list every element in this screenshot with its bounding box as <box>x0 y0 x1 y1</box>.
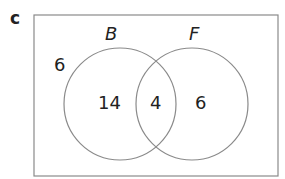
intersection-count: 4 <box>150 92 161 113</box>
set-f-label: F <box>189 23 199 44</box>
venn-diagram <box>0 0 285 179</box>
b-only-count: 14 <box>98 92 121 113</box>
set-b-label: B <box>105 23 117 44</box>
f-only-count: 6 <box>195 92 206 113</box>
outside-count: 6 <box>54 54 65 75</box>
